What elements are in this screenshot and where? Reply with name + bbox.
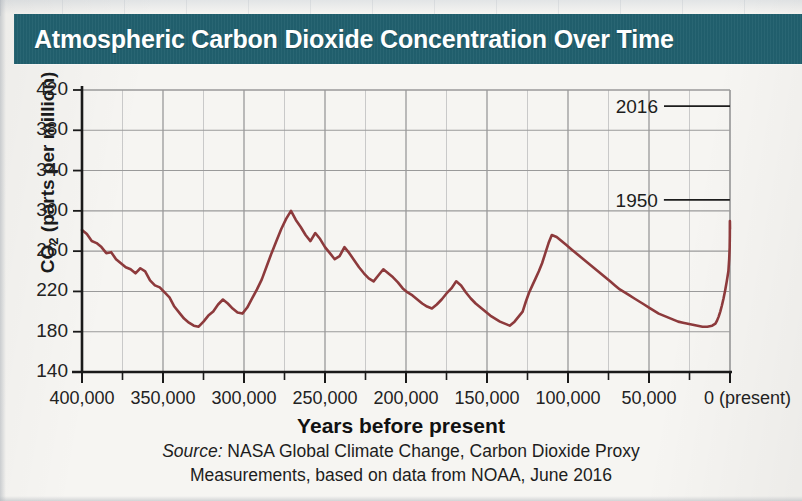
annotation-group: 20161950 [616, 96, 730, 211]
y-tick-label: 140 [12, 360, 68, 382]
x-axis-title: Years before present [0, 414, 802, 438]
y-tick-label: 220 [12, 279, 68, 301]
caption-line-1: Source: NASA Global Climate Change, Carb… [0, 440, 802, 464]
x-tick-label: 0 (present) [704, 388, 802, 409]
y-tick-label: 180 [12, 320, 68, 342]
grid-major-vertical [82, 90, 730, 372]
title-bar: Atmospheric Carbon Dioxide Concentration… [14, 14, 802, 64]
y-tick-label: 420 [12, 78, 68, 100]
chart-title: Atmospheric Carbon Dioxide Concentration… [34, 25, 674, 54]
axis-ticks [73, 90, 730, 383]
y-tick-label: 340 [12, 159, 68, 181]
annotation-label-2016: 2016 [616, 96, 658, 117]
annotation-label-1950: 1950 [616, 190, 658, 211]
x-tick-label: 50,000 [589, 388, 709, 409]
caption-line-2: Measurements, based on data from NOAA, J… [0, 464, 802, 488]
source-caption: Source: NASA Global Climate Change, Carb… [0, 440, 802, 487]
y-tick-label: 260 [12, 239, 68, 261]
y-tick-label: 380 [12, 118, 68, 140]
plot-svg: 20161950 [0, 64, 802, 394]
caption-source-rest: NASA Global Climate Change, Carbon Dioxi… [223, 441, 640, 461]
page-edge-bottom [0, 496, 802, 501]
caption-source-word: Source: [162, 441, 222, 461]
chart-area: CO2 (parts per million) 20161950 1401802… [0, 64, 802, 394]
y-tick-label: 300 [12, 199, 68, 221]
